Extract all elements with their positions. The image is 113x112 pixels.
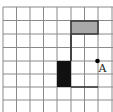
point-a-label: A <box>99 63 107 74</box>
grid-diagram <box>0 0 113 112</box>
black-rectangle <box>57 61 71 87</box>
gray-rectangle <box>71 21 98 34</box>
